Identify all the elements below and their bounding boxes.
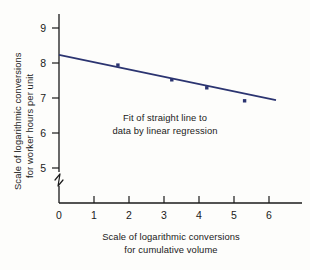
x-tick-label-2: 2: [126, 209, 132, 221]
y-tick-label-9: 9: [40, 22, 46, 34]
x-tick-label-5: 5: [231, 209, 237, 221]
y-axis-title-line1: Scale of logarithmic conversions: [12, 52, 23, 190]
data-point-marker: [116, 63, 119, 66]
data-point-marker: [243, 99, 246, 102]
x-tick-label-0: 0: [56, 209, 62, 221]
annotation-line2: data by linear regression: [112, 125, 217, 136]
annotation-line1: Fit of straight line to: [123, 112, 207, 123]
y-axis-title-line2: for worker hours per unit: [24, 74, 35, 178]
data-point-marker: [170, 78, 173, 81]
x-tick-label-6: 6: [266, 209, 272, 221]
y-tick-label-8: 8: [40, 57, 46, 69]
y-tick-label-7: 7: [40, 92, 46, 104]
y-tick-label-5: 5: [40, 162, 46, 174]
chart-figure: 9 8 7 6 5 Scale of logarithmic conversio…: [0, 0, 310, 270]
x-axis-title-line1: Scale of logarithmic conversions: [102, 231, 240, 242]
x-tick-label-1: 1: [91, 209, 97, 221]
x-tick-label-4: 4: [196, 209, 202, 221]
y-tick-label-6: 6: [40, 127, 46, 139]
x-axis-title-line2: for cumulative volume: [124, 244, 217, 255]
data-point-marker: [205, 86, 208, 89]
x-tick-label-3: 3: [161, 209, 167, 221]
